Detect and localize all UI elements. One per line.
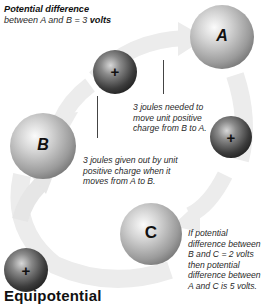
leader-line-b-to-a [163, 60, 164, 94]
pd-title-line2: between A and B = 3 volts [4, 15, 111, 26]
note-b-to-a: 3 joules needed to move unit positive ch… [133, 102, 207, 134]
plus-icon: + [93, 64, 137, 79]
sphere-c-label: C [120, 223, 182, 243]
charge-top: + [93, 50, 137, 94]
sphere-a-label: A [190, 27, 254, 45]
sphere-a: A [190, 5, 254, 69]
sphere-b-label: B [10, 136, 76, 154]
charge-right: + [210, 116, 252, 158]
charge-bottom: + [4, 248, 48, 292]
note-a-to-b: 3 joules given out by unit positive char… [83, 155, 178, 187]
leader-line-a-to-b [97, 96, 98, 138]
note-c: If potential difference between B and C … [188, 228, 261, 292]
section-heading: Equipotential [4, 287, 102, 304]
volts-label: volts [90, 15, 111, 25]
pd-title-line1: Potential difference [4, 4, 111, 15]
plus-icon: + [4, 263, 48, 278]
sphere-c: C [120, 203, 182, 265]
plus-icon: + [210, 130, 252, 145]
pd-title: Potential difference between A and B = 3… [4, 4, 111, 26]
sphere-b: B [10, 113, 76, 179]
